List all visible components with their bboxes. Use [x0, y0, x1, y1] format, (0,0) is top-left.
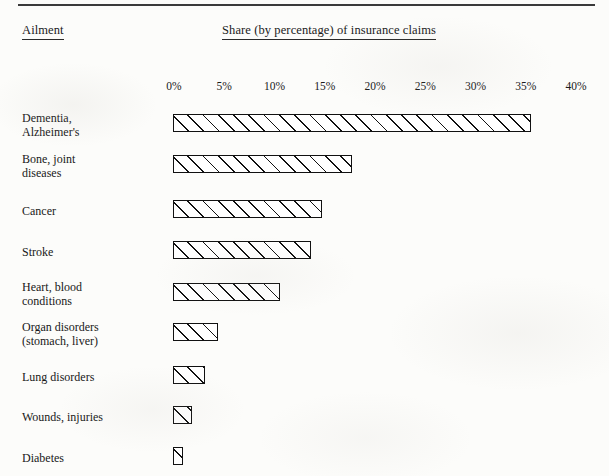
x-axis-tick-15pct: 15%	[314, 80, 335, 93]
top-horizontal-rule	[18, 4, 595, 6]
row-label: Organ disorders (stomach, liver)	[22, 321, 99, 348]
x-axis-tick-30pct: 30%	[465, 80, 486, 93]
row-label: Stroke	[22, 246, 53, 260]
x-axis-tick-0pct: 0%	[166, 80, 181, 93]
row-label: Heart, blood conditions	[22, 281, 82, 308]
x-axis-tick-25pct: 25%	[415, 80, 436, 93]
bar	[173, 323, 218, 341]
column-header-share: Share (by percentage) of insurance claim…	[222, 24, 436, 40]
bar	[173, 155, 352, 173]
bar	[173, 114, 531, 132]
x-axis-tick-35pct: 35%	[515, 80, 536, 93]
row-label: Diabetes	[22, 452, 64, 466]
bar	[173, 366, 205, 384]
row-label: Cancer	[22, 205, 56, 219]
row-label: Bone, joint diseases	[22, 153, 75, 180]
x-axis-tick-labels: 0%5%10%15%20%25%30%35%40%	[0, 80, 609, 96]
bar	[173, 241, 311, 259]
x-axis-tick-5pct: 5%	[217, 80, 232, 93]
column-header-ailment: Ailment	[22, 24, 64, 40]
chart-sheet: Ailment Share (by percentage) of insuran…	[0, 0, 609, 476]
bar	[173, 200, 322, 218]
bar	[173, 406, 192, 424]
row-label: Dementia, Alzheimer's	[22, 112, 79, 139]
bar	[173, 447, 183, 465]
x-axis-tick-40pct: 40%	[565, 80, 586, 93]
x-axis-tick-20pct: 20%	[364, 80, 385, 93]
x-axis-tick-10pct: 10%	[264, 80, 285, 93]
row-label: Wounds, injuries	[22, 411, 103, 425]
bar	[173, 283, 280, 301]
row-label: Lung disorders	[22, 371, 94, 385]
